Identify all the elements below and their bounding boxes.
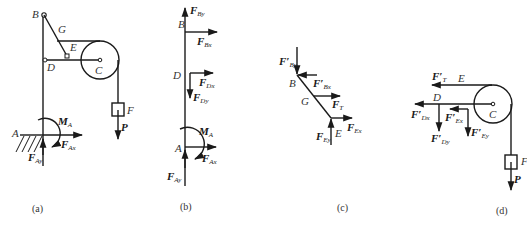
caption-d: (d) [496,205,508,217]
label-e: E [334,127,342,139]
label-fey: F′Ey [470,126,490,140]
label-ma: MA [198,125,214,139]
caption-b: (b) [180,201,192,213]
label-fax: FAx [60,138,77,152]
label-fay: FAy [27,151,43,165]
label-c: C [489,108,497,120]
label-a: A [11,127,19,139]
pulley-axle-icon [98,58,102,62]
label-e: E [69,41,77,53]
label-fex: F′Ex [444,111,464,125]
panel-b: FBy B FBx D FDx FDy MA A FAx FAy (b) [166,4,218,213]
label-fbx: F′Bx [312,77,332,91]
label-d: D [432,91,441,103]
label-c: C [95,64,103,76]
label-fex: FEx [346,121,363,135]
label-f: F [520,155,527,167]
panel-d: F′T E D C F′Dx F′Ex F′Dy F′Ey F P (d) [410,70,527,217]
label-fey: FEy [315,130,332,144]
label-d: D [46,61,55,73]
label-f: F [126,104,134,116]
label-fdy: F′Dy [430,132,450,146]
label-ft: F′T [431,70,447,84]
label-fay: FAy [166,170,182,184]
label-p: P [514,173,521,185]
pin-e-icon [65,54,69,58]
label-fax: FAx [201,152,218,166]
label-a: A [174,142,182,154]
moment-ma-arrow [38,118,60,147]
label-fbx: FBx [196,35,213,49]
label-fdy: FDy [192,91,209,105]
caption-c: (c) [337,202,348,214]
label-fdx: F′Dx [410,108,430,122]
label-e: E [457,72,465,84]
label-g: G [58,23,66,35]
ground-hatch [16,136,42,152]
caption-a: (a) [32,203,43,215]
panel-a: B G E D C F A P MA FAx FAy (a) [11,8,134,215]
free-body-diagram-figure: B G E D C F A P MA FAx FAy (a) FBy B FBx… [0,0,527,226]
label-p: P [121,121,128,133]
label-fdx: FDx [198,76,215,90]
label-ft: FT [331,98,344,112]
label-b: B [32,8,39,20]
label-fby: FBy [189,4,206,18]
label-b: B [178,18,185,30]
link-be [44,15,67,56]
label-ma: MA [57,115,73,129]
label-g: G [301,95,309,107]
label-b: B [289,77,296,89]
label-d: D [172,69,181,81]
label-fby: F′By [278,55,298,69]
panel-c: F′By B F′Bx G FT FEx FEy E (c) [278,47,363,214]
